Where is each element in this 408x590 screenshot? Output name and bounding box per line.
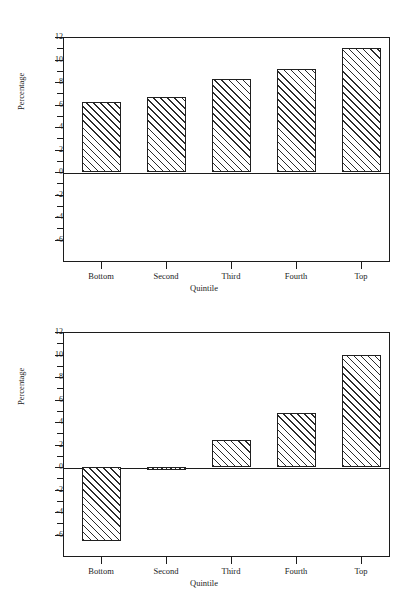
bar-top: [342, 355, 381, 468]
y-tick-minor-3: [57, 138, 63, 139]
bar-fourth: [277, 69, 316, 173]
chart-panel-elderly-families: Elderly Families Percentage 12 10: [0, 0, 408, 295]
y-tick-minor-5: [57, 411, 63, 412]
bar-second: [147, 97, 186, 172]
x-tick-bottom: [101, 557, 102, 564]
figure-page: Elderly Families Percentage 12 10: [0, 0, 408, 590]
y-tick-minor-neg5: [57, 228, 63, 229]
y-tick-minor-11: [57, 343, 63, 344]
x-label-bottom: Bottom: [66, 271, 136, 281]
y-tick-minor-3: [57, 433, 63, 434]
x-label-second: Second: [131, 566, 201, 576]
x-tick-second: [166, 557, 167, 564]
y-tick-minor-7: [57, 388, 63, 389]
y-tick-minor-9: [57, 366, 63, 367]
y-tick-minor-neg3: [57, 501, 63, 502]
x-tick-second: [166, 262, 167, 269]
bars-layer: [63, 37, 390, 262]
y-tick-minor-neg1: [57, 183, 63, 184]
x-label-bottom: Bottom: [66, 566, 136, 576]
x-label-third: Third: [196, 271, 266, 281]
x-label-top: Top: [326, 566, 396, 576]
x-tick-third: [231, 557, 232, 564]
bar-third: [212, 440, 251, 467]
bar-fourth: [277, 413, 316, 467]
y-tick-minor-9: [57, 71, 63, 72]
x-tick-bottom: [101, 262, 102, 269]
bar-second: [147, 467, 186, 470]
x-label-fourth: Fourth: [261, 271, 331, 281]
x-label-fourth: Fourth: [261, 566, 331, 576]
x-tick-top: [361, 557, 362, 564]
x-tick-fourth: [296, 262, 297, 269]
y-tick-minor-1: [57, 456, 63, 457]
bar-bottom: [82, 102, 121, 172]
x-axis-title: Quintile: [0, 283, 408, 293]
bars-layer: [63, 332, 390, 557]
chart-panel-nonelderly-two-earner-families: Nonelderly Husband-Wife Two-Earner Famil…: [0, 295, 408, 590]
y-tick-minor-7: [57, 93, 63, 94]
y-tick-minor-neg1: [57, 478, 63, 479]
y-tick-minor-neg5: [57, 523, 63, 524]
x-tick-top: [361, 262, 362, 269]
y-tick-minor-11: [57, 48, 63, 49]
y-tick-minor-1: [57, 161, 63, 162]
x-tick-third: [231, 262, 232, 269]
bar-bottom: [82, 467, 121, 541]
x-tick-fourth: [296, 557, 297, 564]
x-label-second: Second: [131, 271, 201, 281]
bar-third: [212, 79, 251, 172]
x-axis-title: Quintile: [0, 578, 408, 588]
x-label-top: Top: [326, 271, 396, 281]
y-tick-minor-neg3: [57, 206, 63, 207]
bar-top: [342, 48, 381, 172]
x-label-third: Third: [196, 566, 266, 576]
y-tick-minor-5: [57, 116, 63, 117]
